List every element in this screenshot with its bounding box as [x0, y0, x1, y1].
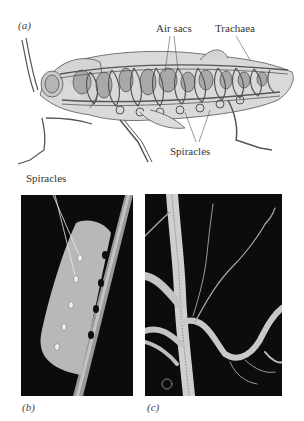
panel-c-tag: (c) — [147, 401, 159, 413]
panel-b-photo — [21, 195, 133, 396]
caterpillar-image — [21, 195, 133, 396]
panel-c-photo — [145, 194, 282, 396]
panel-b-tag: (b) — [22, 401, 35, 413]
insect-diagram — [0, 0, 304, 190]
spiracles-label-b: Spiracles — [26, 172, 66, 184]
trachea-image — [145, 194, 282, 396]
